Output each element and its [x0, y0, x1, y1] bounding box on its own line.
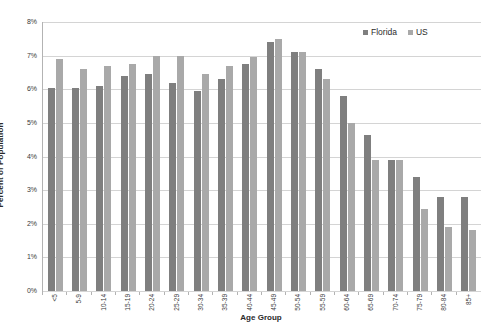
bar-us-60-64	[348, 123, 355, 291]
x-axis-ticks: <55-910-1415-1920-2425-2930-3435-3940-44…	[42, 292, 480, 314]
bar-group	[165, 22, 189, 291]
y-tick-label: 2%	[15, 220, 37, 227]
x-tick-label: 70-74	[391, 294, 398, 311]
bar-us-85+	[469, 230, 476, 291]
x-tick-cell: 45-49	[261, 292, 285, 314]
bar-florida-15-19	[121, 76, 128, 291]
bar-florida-30-34	[194, 91, 201, 291]
y-tick-label: 3%	[15, 186, 37, 193]
x-tick-cell: 80-84	[431, 292, 455, 314]
x-tick-cell: 65-69	[358, 292, 382, 314]
x-tickmark	[42, 292, 43, 295]
bar-group	[262, 22, 286, 291]
x-tick-cell: 25-29	[164, 292, 188, 314]
bar-group	[359, 22, 383, 291]
bar-us-75-79	[421, 209, 428, 291]
bar-group	[384, 22, 408, 291]
chart-legend: FloridaUS	[363, 27, 428, 37]
y-tick-label: 6%	[15, 85, 37, 92]
bars-layer	[43, 22, 481, 291]
x-tickmark	[407, 292, 408, 295]
bar-group	[286, 22, 310, 291]
bar-florida-<5	[48, 88, 55, 291]
x-tick-label: 5-9	[75, 294, 82, 303]
x-tick-label: 40-44	[245, 294, 252, 311]
bar-florida-70-74	[388, 160, 395, 291]
bar-us-30-34	[202, 74, 209, 291]
x-tick-label: <5	[51, 294, 58, 301]
x-tickmark	[91, 292, 92, 295]
bar-us-70-74	[396, 160, 403, 291]
bar-group	[189, 22, 213, 291]
x-tick-label: 60-64	[343, 294, 350, 311]
bar-us-25-29	[177, 56, 184, 291]
x-tickmark	[66, 292, 67, 295]
x-tickmark	[431, 292, 432, 295]
x-tick-cell: 40-44	[237, 292, 261, 314]
x-tick-label: 15-19	[124, 294, 131, 311]
x-tick-label: 50-54	[294, 294, 301, 311]
x-tick-cell: 85+	[456, 292, 480, 314]
y-tick-label: 0%	[15, 287, 37, 294]
x-tickmark	[334, 292, 335, 295]
x-tick-label: 85+	[464, 294, 471, 305]
bar-florida-25-29	[169, 83, 176, 291]
x-tickmark	[456, 292, 457, 295]
legend-label: US	[416, 27, 428, 37]
bar-group	[43, 22, 67, 291]
bar-florida-50-54	[291, 52, 298, 291]
bar-group	[311, 22, 335, 291]
x-tickmark	[383, 292, 384, 295]
x-tickmark	[212, 292, 213, 295]
bar-group	[457, 22, 481, 291]
bar-group	[67, 22, 91, 291]
bar-group	[140, 22, 164, 291]
x-tick-cell: 60-64	[334, 292, 358, 314]
x-tickmark	[261, 292, 262, 295]
bar-us-20-24	[153, 56, 160, 291]
x-tick-cell: 5-9	[66, 292, 90, 314]
bar-us-10-14	[104, 66, 111, 291]
bar-group	[408, 22, 432, 291]
x-tick-label: 80-84	[440, 294, 447, 311]
bar-chart: Percent of Population 8%7%6%5%4%3%2%1%0%…	[0, 0, 489, 330]
y-tick-label: 7%	[15, 52, 37, 59]
bar-us-80-84	[445, 227, 452, 291]
x-tick-label: 30-34	[197, 294, 204, 311]
legend-item-us[interactable]: US	[408, 27, 428, 37]
bar-florida-40-44	[242, 64, 249, 291]
x-tick-label: 35-39	[221, 294, 228, 311]
bar-group	[335, 22, 359, 291]
bar-florida-45-49	[267, 42, 274, 291]
legend-swatch-icon	[363, 30, 368, 35]
bar-florida-75-79	[413, 177, 420, 291]
bar-us-<5	[56, 59, 63, 291]
legend-swatch-icon	[408, 30, 413, 35]
x-tick-label: 25-29	[172, 294, 179, 311]
x-tick-cell: 70-74	[383, 292, 407, 314]
bar-us-40-44	[250, 57, 257, 291]
x-tick-cell: <5	[42, 292, 66, 314]
bar-florida-5-9	[72, 88, 79, 291]
bar-us-5-9	[80, 69, 87, 291]
bar-florida-80-84	[437, 197, 444, 291]
x-tickmark	[164, 292, 165, 295]
bar-florida-85+	[461, 197, 468, 291]
x-tick-label: 45-49	[270, 294, 277, 311]
x-tick-cell: 15-19	[115, 292, 139, 314]
x-tick-cell: 35-39	[212, 292, 236, 314]
x-tickmark	[237, 292, 238, 295]
y-tick-label: 5%	[15, 119, 37, 126]
x-tickmark	[139, 292, 140, 295]
x-tickmark	[115, 292, 116, 295]
y-tick-label: 1%	[15, 253, 37, 260]
x-tick-label: 55-59	[318, 294, 325, 311]
bar-us-45-49	[275, 39, 282, 291]
bar-group	[116, 22, 140, 291]
x-tick-label: 20-24	[148, 294, 155, 311]
bar-us-35-39	[226, 66, 233, 291]
x-tickmark	[358, 292, 359, 295]
bar-florida-20-24	[145, 74, 152, 291]
legend-item-florida[interactable]: Florida	[363, 27, 397, 37]
x-tick-cell: 20-24	[139, 292, 163, 314]
